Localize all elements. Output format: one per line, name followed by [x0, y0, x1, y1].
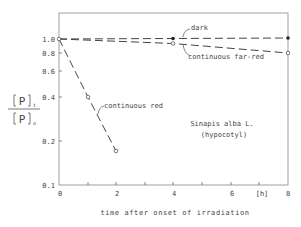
y-tick-label: 0.1	[42, 182, 55, 190]
x-tick-label: 8	[286, 190, 290, 198]
y-tick-label: 0.2	[42, 138, 55, 146]
x-tick-label: 0	[58, 190, 62, 198]
series-continuous-red	[59, 39, 118, 153]
x-tick-label: 4	[172, 190, 176, 198]
legend-dark: dark	[191, 24, 209, 32]
species-annotation: Sinapis alba L.	[190, 120, 253, 128]
tissue-annotation: (hypocotyl)	[201, 131, 247, 139]
leader-dark	[183, 29, 190, 37]
chart: 1.0 0.8 0.6 0.4 0.2 0.1 0 2 4 6 [h] 8 ti…	[0, 0, 301, 227]
x-tick-label: 6	[230, 190, 234, 198]
svg-text:P: P	[19, 95, 26, 108]
y-axis	[59, 39, 62, 141]
y-axis-title: P t P o	[8, 95, 40, 126]
y-tick-label: 0.6	[42, 68, 55, 76]
series-dark	[59, 36, 290, 40]
y-tick-label: 0.4	[42, 94, 55, 102]
origin-marker	[57, 37, 61, 41]
svg-text:P: P	[19, 113, 26, 126]
y-tick-label: 1.0	[42, 36, 55, 44]
x-axis-title: time after onset of irradiation	[100, 209, 249, 217]
y-tick-label: 0.8	[42, 50, 55, 58]
svg-text:t: t	[33, 102, 36, 108]
x-tick-label: 2	[115, 190, 119, 198]
svg-text:o: o	[33, 120, 36, 126]
x-axis	[88, 182, 259, 185]
legend-continuous-far-red: continuous far-red	[188, 53, 264, 61]
x-unit-label: [h]	[256, 190, 269, 198]
legend-continuous-red: continuous red	[104, 102, 163, 110]
